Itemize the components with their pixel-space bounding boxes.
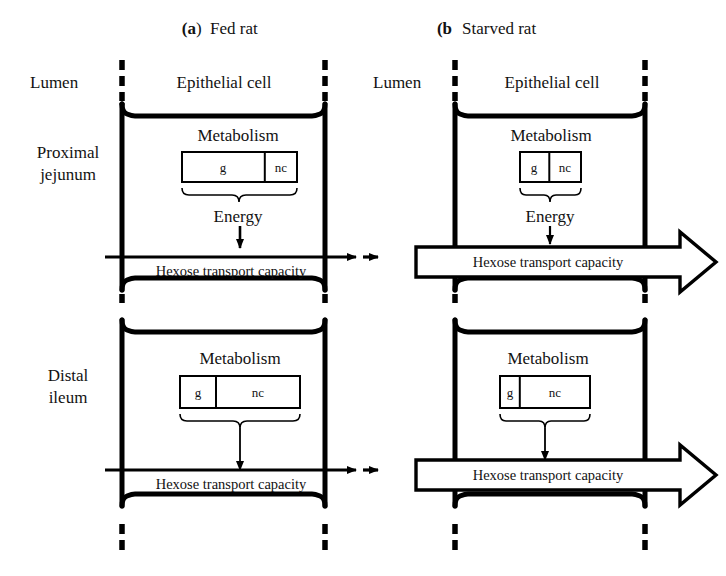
substrate-box-proximal-starved [520, 152, 581, 182]
substrate-label-g-proximal-fed: g [220, 160, 227, 175]
brace-proximal-starved [520, 188, 581, 202]
panel-b-title: Starved rat [462, 19, 536, 38]
panel-a-lumen-label: Lumen [30, 73, 79, 92]
panel-b-letter: (b [437, 19, 452, 38]
transport-label-proximal-fed: Hexose transport capacity [156, 263, 307, 279]
diagram-svg: (a ) Fed rat (b Starved rat Lumen Epithe… [0, 0, 726, 576]
row-label-distal-line2: ileum [49, 388, 88, 407]
panel-b-lumen-label: Lumen [373, 73, 422, 92]
substrate-label-nc-distal-fed: nc [252, 385, 265, 400]
metabolism-label-proximal-starved: Metabolism [510, 126, 591, 145]
panel-a-title: Fed rat [210, 19, 258, 38]
metabolism-label-distal-starved: Metabolism [507, 349, 588, 368]
brace-distal-fed [180, 414, 300, 428]
substrate-label-g-proximal-starved: g [531, 160, 538, 175]
transport-label-distal-starved: Hexose transport capacity [473, 467, 624, 483]
substrate-box-distal-starved [500, 376, 590, 408]
brace-distal-starved [500, 414, 590, 428]
energy-label-proximal-fed: Energy [214, 207, 263, 226]
row-label-proximal-line2: jejunum [39, 165, 96, 184]
figure-canvas: (a ) Fed rat (b Starved rat Lumen Epithe… [0, 0, 726, 576]
transport-label-distal-fed: Hexose transport capacity [156, 476, 307, 492]
metabolism-label-proximal-fed: Metabolism [197, 126, 278, 145]
substrate-label-nc-proximal-fed: nc [275, 160, 288, 175]
panel-a-membrane-dashes-bottom [122, 524, 325, 550]
panel-a-letter: (a [182, 19, 197, 38]
panel-b-cell-label: Epithelial cell [505, 73, 600, 92]
panel-a-cell-label: Epithelial cell [177, 73, 272, 92]
substrate-label-g-distal-starved: g [507, 385, 514, 400]
panel-a-letter-close: ) [196, 19, 202, 38]
panel-a-membrane-dashes-mid [122, 294, 325, 303]
brace-proximal-fed [182, 188, 297, 202]
panel-b-membrane-dashes-bottom [455, 524, 645, 550]
substrate-label-g-distal-fed: g [195, 385, 202, 400]
substrate-label-nc-proximal-starved: nc [559, 160, 572, 175]
row-label-distal-line1: Distal [48, 366, 89, 385]
row-label-proximal-line1: Proximal [37, 143, 100, 162]
transport-label-proximal-starved: Hexose transport capacity [473, 254, 624, 270]
energy-label-proximal-starved: Energy [526, 207, 575, 226]
substrate-label-nc-distal-starved: nc [549, 385, 562, 400]
metabolism-label-distal-fed: Metabolism [199, 349, 280, 368]
panel-b-membrane-dashes-mid [455, 294, 645, 303]
